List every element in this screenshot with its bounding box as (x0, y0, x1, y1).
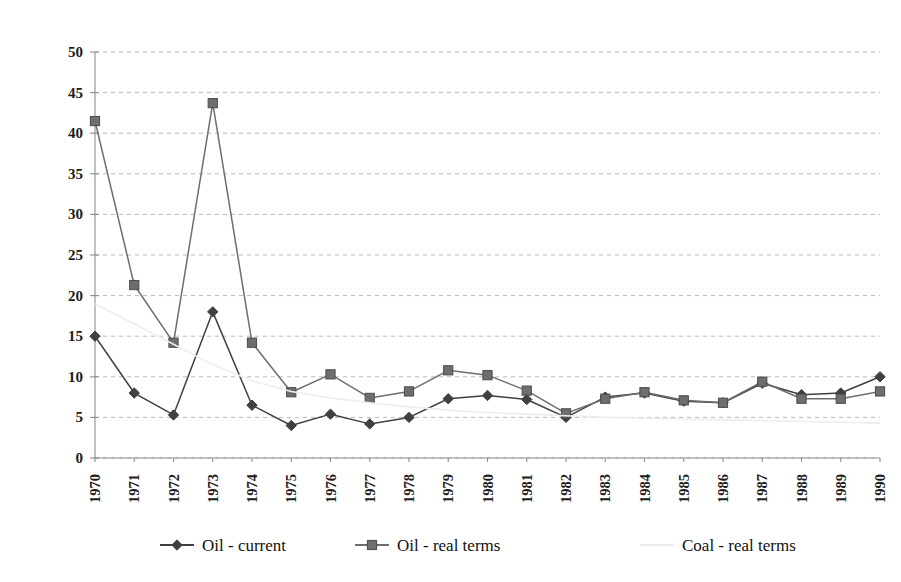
data-point-square-marker (640, 388, 649, 397)
data-point-diamond-marker (90, 331, 100, 341)
data-point-diamond-marker (482, 390, 492, 400)
x-tick-label: 1981 (519, 474, 535, 503)
y-tick-label: 35 (68, 166, 83, 182)
y-tick-label: 0 (76, 450, 84, 466)
x-tick-label: 1990 (872, 474, 888, 503)
x-tick-label: 1976 (323, 474, 339, 503)
y-tick-label: 20 (68, 288, 83, 304)
data-point-square-marker (797, 394, 806, 403)
data-point-square-marker (208, 99, 217, 108)
x-tick-label: 1975 (283, 474, 299, 503)
chart-legend: Oil - currentOil - real termsCoal - real… (160, 536, 796, 555)
series-line (95, 103, 880, 413)
x-tick-label: 1979 (440, 474, 456, 503)
legend-square-marker (367, 540, 376, 549)
data-point-square-marker (444, 366, 453, 375)
x-axis-ticks: 1970197119721973197419751976197719781979… (87, 458, 888, 503)
data-point-square-marker (718, 398, 727, 407)
y-tick-label: 10 (68, 369, 83, 385)
data-point-square-marker (326, 370, 335, 379)
data-point-diamond-marker (443, 394, 453, 404)
data-point-square-marker (522, 386, 531, 395)
x-tick-label: 1989 (833, 474, 849, 503)
legend-label: Coal - real terms (682, 536, 796, 555)
y-tick-label: 15 (68, 328, 83, 344)
x-tick-label: 1985 (676, 474, 692, 503)
data-point-diamond-marker (286, 420, 296, 430)
data-point-diamond-marker (208, 307, 218, 317)
data-point-diamond-marker (365, 419, 375, 429)
series-oil-real-terms (90, 99, 884, 418)
x-tick-label: 1980 (480, 474, 496, 503)
data-point-square-marker (90, 116, 99, 125)
legend-label: Oil - real terms (397, 536, 500, 555)
x-tick-label: 1971 (126, 474, 142, 503)
data-point-square-marker (247, 338, 256, 347)
data-point-square-marker (483, 371, 492, 380)
x-tick-label: 1972 (166, 474, 182, 503)
series-line (95, 304, 880, 423)
x-tick-label: 1984 (637, 474, 653, 503)
x-tick-label: 1987 (754, 474, 770, 503)
data-point-square-marker (601, 394, 610, 403)
y-tick-label: 45 (68, 85, 83, 101)
x-tick-label: 1973 (205, 474, 221, 503)
x-tick-label: 1983 (597, 474, 613, 503)
y-tick-label: 50 (68, 44, 83, 60)
legend-label: Oil - current (202, 536, 286, 555)
y-tick-label: 40 (68, 125, 83, 141)
chart-canvas: 50454035302520151050 1970197119721973197… (0, 0, 901, 582)
x-tick-label: 1970 (87, 474, 103, 503)
data-point-diamond-marker (522, 394, 532, 404)
data-point-square-marker (130, 280, 139, 289)
line-chart: 50454035302520151050 1970197119721973197… (0, 0, 901, 582)
data-point-diamond-marker (404, 412, 414, 422)
data-point-square-marker (365, 393, 374, 402)
x-tick-label: 1978 (401, 474, 417, 503)
data-point-diamond-marker (325, 409, 335, 419)
data-point-square-marker (875, 387, 884, 396)
x-tick-label: 1977 (362, 474, 378, 503)
data-point-diamond-marker (168, 410, 178, 420)
x-tick-label: 1974 (244, 474, 260, 503)
series-line (95, 312, 880, 426)
data-point-square-marker (404, 387, 413, 396)
x-tick-label: 1986 (715, 474, 731, 503)
data-point-square-marker (836, 394, 845, 403)
legend-item-1[interactable]: Oil - real terms (355, 536, 500, 555)
data-point-square-marker (758, 377, 767, 386)
y-tick-label: 25 (68, 247, 83, 263)
data-point-square-marker (679, 396, 688, 405)
y-tick-label: 5 (76, 409, 84, 425)
legend-diamond-marker (172, 540, 182, 550)
x-tick-label: 1982 (558, 474, 574, 503)
y-axis-ticks: 50454035302520151050 (68, 44, 99, 466)
data-point-diamond-marker (129, 388, 139, 398)
legend-item-0[interactable]: Oil - current (160, 536, 286, 555)
series-coal-real-terms (95, 304, 880, 423)
legend-item-2[interactable]: Coal - real terms (640, 536, 796, 555)
x-tick-label: 1988 (794, 474, 810, 503)
series-layer (90, 99, 885, 431)
y-tick-label: 30 (68, 206, 83, 222)
data-point-diamond-marker (247, 400, 257, 410)
data-point-diamond-marker (875, 372, 885, 382)
